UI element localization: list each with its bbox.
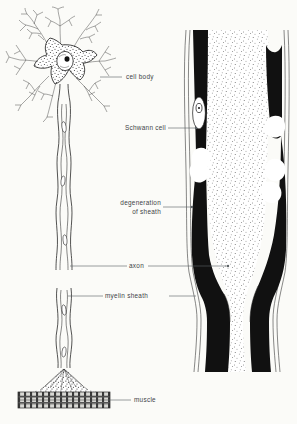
schwann-cell-nucleus-enlarged xyxy=(193,97,206,129)
label-schwann-cell: Schwann cell xyxy=(125,124,166,131)
nucleolus xyxy=(65,56,70,62)
diagram-canvas: cell body Schwann cell degeneration of s… xyxy=(0,0,297,424)
label-degeneration-line2: of sheath xyxy=(132,208,161,215)
label-axon: axon xyxy=(129,262,144,269)
label-myelin-sheath: myelin sheath xyxy=(105,292,148,300)
label-degeneration-line1: degeneration xyxy=(120,199,161,207)
degeneration-gap-upper-right xyxy=(265,116,285,138)
schwann-nucleolus xyxy=(198,107,200,109)
label-cell-body: cell body xyxy=(126,73,154,81)
nucleus xyxy=(57,51,73,70)
neuron-degeneration-figure: cell body Schwann cell degeneration of s… xyxy=(0,0,297,424)
degeneration-gap-mid-right xyxy=(265,159,286,181)
label-muscle: muscle xyxy=(134,396,156,403)
